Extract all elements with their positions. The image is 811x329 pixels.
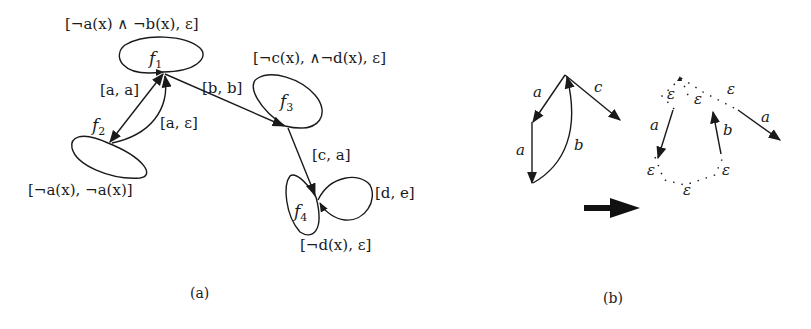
f2-label: f2 <box>90 115 105 138</box>
eps-label-3: ε <box>727 80 735 98</box>
node-f2: f2 [¬a(x), ¬a(x)] <box>28 115 147 199</box>
figure-canvas: f1 [¬a(x) ∧ ¬b(x), ε] [a, a] [a, ε] f2 [… <box>0 0 811 329</box>
f1-label: f1 <box>147 48 162 71</box>
edge-label-d-e: [d, e] <box>375 184 415 202</box>
edge-label-c-a: [c, a] <box>312 146 351 164</box>
f2-guard-label: [¬a(x), ¬a(x)] <box>28 181 133 199</box>
label-right-a-left: a <box>650 116 659 134</box>
f1-guard-label: [¬a(x) ∧ ¬b(x), ε] <box>65 15 199 33</box>
f3-label: f3 <box>278 91 293 114</box>
f2-self-loop <box>72 136 147 178</box>
node-f1: f1 [¬a(x) ∧ ¬b(x), ε] <box>65 15 203 76</box>
f4-label: f4 <box>292 201 307 224</box>
label-b: b <box>574 136 584 154</box>
edge-right-b <box>713 112 721 154</box>
label-c: c <box>594 78 603 96</box>
eps-label-4: ε <box>647 161 655 179</box>
f4-self-loop-d-e <box>318 177 372 220</box>
eps-label-2: ε <box>694 90 702 108</box>
edge-label-a-a: [a, a] <box>100 81 139 99</box>
left-graph: a c a b <box>516 75 620 183</box>
label-a-bottom: a <box>516 141 525 159</box>
panel-b: a c a b a b a ε ε ε <box>516 75 780 306</box>
f4-guard-label: [¬d(x), ε] <box>300 236 371 254</box>
eps-label-1: ε <box>667 85 675 103</box>
f4-self-loop-guard <box>286 175 319 235</box>
label-a-top: a <box>533 83 542 101</box>
label-right-a-right: a <box>761 108 770 126</box>
edge-right-a-left <box>658 110 673 158</box>
edge-right-a-right <box>738 110 780 140</box>
eps-label-5: ε <box>722 161 730 179</box>
label-right-b: b <box>723 121 733 139</box>
f3-guard-label: [¬c(x), ∧¬d(x), ε] <box>253 49 386 67</box>
panel-b-caption: (b) <box>603 290 623 306</box>
edge-label-b-b: [b, b] <box>202 79 242 97</box>
right-graph: a b a ε ε ε ε ε ε <box>647 76 780 199</box>
eps-dotted-top-center <box>681 78 690 100</box>
edge-label-a-eps: [a, ε] <box>160 114 198 132</box>
panel-a-caption: (a) <box>190 285 209 301</box>
eps-label-6: ε <box>683 181 691 199</box>
node-f3: f3 [¬c(x), ∧¬d(x), ε] <box>253 49 386 128</box>
transform-arrow-icon <box>584 198 640 218</box>
node-f4: f4 [¬d(x), ε] [d, e] <box>286 175 415 254</box>
edge-left-c <box>565 75 620 120</box>
edge-f3-f4 <box>288 128 315 195</box>
panel-a: f1 [¬a(x) ∧ ¬b(x), ε] [a, a] [a, ε] f2 [… <box>28 15 415 301</box>
